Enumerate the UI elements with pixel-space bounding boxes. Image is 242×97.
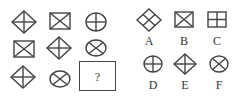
rect-x-icon [13,40,35,58]
diamond-cross-icon [46,36,72,60]
option-label-a: A [139,35,159,47]
circle-cross-icon [85,12,107,32]
diamond-grid-icon [136,8,162,32]
diamond-cross-icon [11,10,37,34]
option-label-c: C [207,35,227,47]
rect-cross-icon [207,11,227,28]
rect-x-icon [49,12,71,30]
option-label-d: D [143,79,163,91]
option-label-b: B [174,35,194,47]
answer-box: ? [79,61,116,91]
option-label-e: E [175,79,195,91]
rect-x-icon [174,11,194,28]
ellipse-x-icon [209,55,229,73]
ellipse-x-icon [49,70,71,88]
question-mark: ? [80,70,115,85]
option-label-f: F [209,79,229,91]
diamond-cross-icon [10,65,36,89]
diamond-cross-icon [173,53,197,75]
puzzle-figure: ? A B C D E F [0,0,242,97]
circle-cross-icon [143,55,163,73]
ellipse-x-icon [85,39,107,57]
